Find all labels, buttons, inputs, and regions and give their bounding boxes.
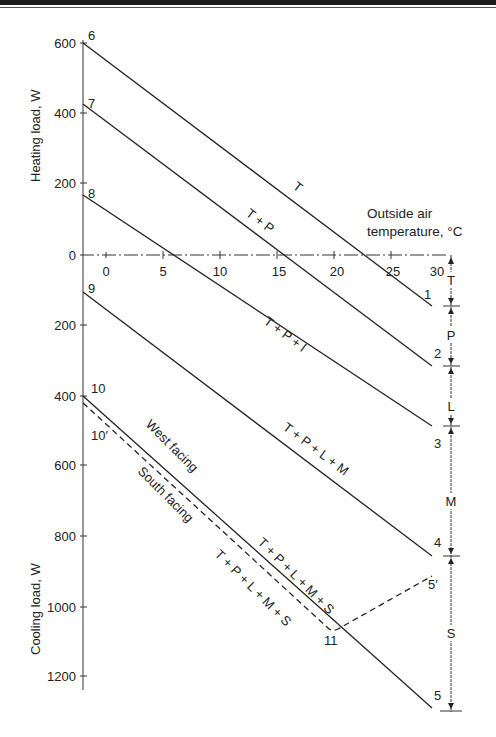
bracket-L: L [447, 399, 454, 414]
point-4: 4 [434, 535, 441, 550]
point-6: 6 [88, 28, 95, 43]
point-8: 8 [88, 186, 95, 201]
point-3: 3 [434, 436, 441, 451]
point-10-prime: 10′ [91, 428, 108, 443]
load-vs-temperature-chart: 600 400 200 0 200 400 600 800 1000 1200 … [0, 0, 496, 737]
xtick-10: 10 [213, 264, 227, 279]
bracket-P: P [447, 328, 456, 343]
tick-c400: 400 [54, 389, 76, 404]
point-1: 1 [424, 287, 431, 302]
y-axis [80, 40, 87, 690]
line-west-facing [83, 396, 432, 708]
point-10: 10 [91, 381, 105, 396]
tick-200: 200 [54, 176, 76, 191]
tick-c200: 200 [54, 318, 76, 333]
point-5-prime: 5′ [428, 577, 438, 592]
tick-c1000: 1000 [47, 600, 76, 615]
tick-0: 0 [69, 248, 76, 263]
point-11: 11 [324, 633, 338, 648]
xtick-0: 0 [102, 264, 109, 279]
xtick-20: 20 [330, 264, 344, 279]
tick-600: 600 [54, 36, 76, 51]
heating-axis-title: Heating load, W [28, 89, 43, 182]
label-T: T [290, 178, 305, 195]
xtick-15: 15 [272, 264, 286, 279]
load-lines [83, 43, 432, 708]
point-5: 5 [434, 688, 441, 703]
cooling-tick-labels: 200 400 600 800 1000 1200 [47, 318, 76, 684]
line-T [83, 43, 432, 306]
series-labels: T T + P T + P + l T + P + L + M West fac… [135, 178, 352, 629]
point-9: 9 [88, 281, 95, 296]
label-T-P: T + P [243, 205, 277, 236]
heating-tick-labels: 600 400 200 0 [54, 36, 76, 263]
tick-c600: 600 [54, 458, 76, 473]
line-T-P-L-M [83, 292, 432, 556]
point-7: 7 [88, 96, 95, 111]
label-south-facing: South facing [135, 464, 197, 526]
label-T-P-I: T + P + l [261, 313, 309, 354]
tick-c1200: 1200 [47, 669, 76, 684]
x-axis-title-line1: Outside air [367, 206, 433, 221]
cooling-axis-title: Cooling load, W [28, 563, 43, 655]
x-axis-title-line2: temperature, °C [367, 224, 463, 239]
tick-c800: 800 [54, 529, 76, 544]
tick-400: 400 [54, 106, 76, 121]
x-axis [80, 251, 448, 259]
bracket-S: S [447, 626, 456, 641]
point-2: 2 [434, 346, 441, 361]
right-brackets [440, 255, 462, 712]
bracket-T: T [447, 273, 455, 288]
xtick-5: 5 [159, 264, 166, 279]
xtick-30: 30 [430, 264, 444, 279]
bracket-M: M [446, 494, 457, 509]
